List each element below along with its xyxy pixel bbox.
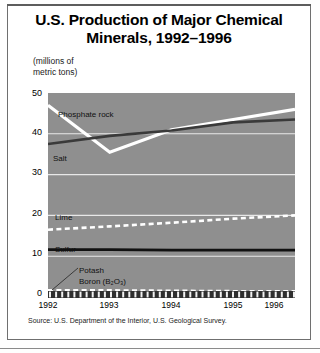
x-tick-1992: 1992 bbox=[28, 300, 68, 310]
y-tick-40: 40 bbox=[16, 128, 42, 137]
y-tick-10: 10 bbox=[16, 249, 42, 258]
x-axis-baseline bbox=[48, 291, 295, 298]
series-line-lime bbox=[48, 215, 295, 229]
baseline-ticks bbox=[49, 292, 295, 298]
series-label-boron: Boron (B₂O₃) bbox=[79, 277, 126, 286]
plot-container: 50 40 30 20 10 0 Phosphate rock Salt Lim… bbox=[0, 0, 320, 353]
x-tick-1996: 1996 bbox=[254, 300, 294, 310]
y-tick-20: 20 bbox=[16, 209, 42, 218]
x-tick-1994: 1994 bbox=[151, 300, 191, 310]
y-tick-30: 30 bbox=[16, 168, 42, 177]
y-tick-0: 0 bbox=[16, 289, 42, 298]
source-note: Source: U.S. Department of the Interior,… bbox=[28, 317, 227, 324]
gridlines bbox=[48, 134, 295, 256]
callout-leader-line bbox=[50, 266, 82, 292]
series-label-phosphate-rock: Phosphate rock bbox=[58, 110, 114, 119]
x-tick-1993: 1993 bbox=[89, 300, 129, 310]
series-label-potash: Potash bbox=[79, 266, 104, 275]
figure-page: U.S. Production of Major Chemical Minera… bbox=[0, 0, 320, 353]
series-label-salt: Salt bbox=[53, 154, 67, 163]
x-tick-1995: 1995 bbox=[213, 300, 253, 310]
series-label-lime: Lime bbox=[55, 213, 72, 222]
series-label-sulfur: Sulfur bbox=[55, 245, 76, 254]
y-tick-50: 50 bbox=[16, 89, 42, 98]
